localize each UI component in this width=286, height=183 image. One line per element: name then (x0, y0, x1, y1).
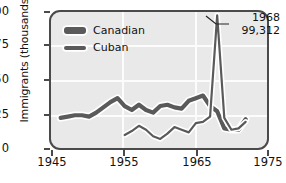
legend-swatch-cuban-icon (64, 46, 86, 50)
legend-label-cuban: Cuban (93, 41, 128, 54)
legend: Canadian Cuban (64, 24, 145, 54)
peak-annotation-year: 1968 (196, 12, 280, 25)
legend-item-cuban[interactable]: Cuban (64, 41, 145, 54)
y-axis-title: Immigrants (thousands) (18, 0, 31, 129)
y-tick-label-100: 100 (0, 4, 9, 18)
y-tick-mark-0 (44, 148, 50, 150)
x-tick-label-1965: 1965 (174, 155, 220, 169)
y-tick-label-0: 0 (2, 141, 9, 155)
y-tick-label-75: 75 (0, 37, 9, 51)
legend-item-canadian[interactable]: Canadian (64, 24, 145, 37)
x-tick-label-1945: 1945 (29, 155, 75, 169)
peak-annotation: 1968 99,312 (196, 12, 280, 37)
legend-swatch-canadian-icon (64, 27, 86, 34)
y-tick-label-25: 25 (0, 107, 9, 121)
y-tick-label-50: 50 (0, 72, 9, 86)
y-tick-mark-100 (44, 11, 50, 13)
x-tick-label-1955: 1955 (101, 155, 147, 169)
legend-label-canadian: Canadian (93, 24, 145, 37)
peak-annotation-value: 99,312 (196, 25, 280, 38)
x-tick-label-1975: 1975 (245, 155, 286, 169)
immigrants-line-chart: Immigrants (thousands) 100 75 50 25 0 19… (0, 0, 286, 183)
